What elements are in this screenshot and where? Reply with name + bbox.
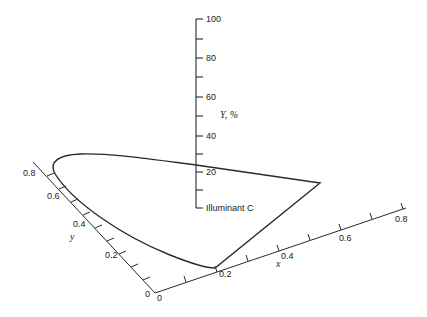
x-axis [155,203,406,293]
y-axis [33,162,155,293]
y-axis-label: y [69,231,75,242]
chromaticity-diagram: 100 80 60 40 20 Illuminant C Y, % 0 0.2 … [0,0,427,317]
xtick-label-0: 0 [157,293,162,303]
vtick-label-60: 60 [206,92,216,102]
vtick-label-80: 80 [206,53,216,63]
vertical-axis-label: Y, % [220,109,238,120]
ytick-label-0.6: 0.6 [47,191,60,201]
ytick-label-0.8: 0.8 [23,168,36,178]
xtick-label-0.6: 0.6 [339,233,352,243]
ytick-label-0.4: 0.4 [73,219,86,229]
vtick-label-20: 20 [206,167,216,177]
vtick-label-40: 40 [206,131,216,141]
vertical-y-axis [196,19,203,208]
xtick-label-0.4: 0.4 [281,251,294,261]
xtick-label-0.8: 0.8 [395,214,408,224]
x-axis-label: x [275,258,281,269]
ytick-label-0: 0 [145,289,150,299]
xtick-label-0.2: 0.2 [219,269,232,279]
ytick-label-0.2: 0.2 [105,250,118,260]
illuminant-c-label: Illuminant C [206,203,254,213]
vtick-label-100: 100 [206,14,221,24]
